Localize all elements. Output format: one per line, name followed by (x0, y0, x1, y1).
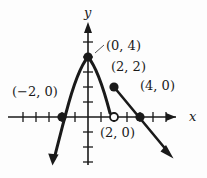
label-point-2-0: (2, 0) (100, 126, 135, 139)
x-axis-arrowhead (166, 113, 176, 121)
point-open-2-0 (110, 113, 118, 121)
point-vertex-0-4 (83, 52, 92, 61)
point-right-root-4-0 (135, 112, 144, 121)
label-point-4-0: (4, 0) (140, 79, 175, 92)
label-vertex-0-4: (0, 4) (106, 39, 141, 52)
x-axis-label: x (189, 110, 196, 123)
parabola-branch-arrowhead (48, 154, 58, 166)
point-segment-start-2-2 (109, 82, 118, 91)
graph-figure: x y (0, 4) (2, 2) (−2, 0) (4, 0) (2, 0) (0, 0, 207, 178)
label-point-neg2-0: (−2, 0) (12, 85, 58, 98)
label-point-2-2: (2, 2) (111, 60, 146, 73)
point-left-root-neg2-0 (57, 112, 66, 121)
y-axis-label: y (84, 6, 91, 19)
y-axis-arrowhead (84, 22, 92, 33)
vertex-leader-line (95, 45, 104, 53)
